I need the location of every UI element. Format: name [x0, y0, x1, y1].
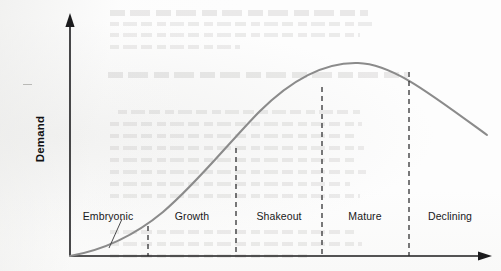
x-axis — [70, 251, 492, 260]
stage-dividers — [148, 72, 409, 256]
chart-canvas — [0, 0, 501, 271]
demand-curve — [70, 63, 487, 256]
stage-label-growth: Growth — [175, 210, 209, 222]
stage-label-mature: Mature — [348, 210, 381, 222]
y-axis-label: Demand — [34, 116, 46, 163]
embryonic-leader-line — [109, 219, 122, 248]
stage-label-declining: Declining — [428, 210, 472, 222]
stage-label-shakeout: Shakeout — [256, 210, 301, 222]
stage-label-embryonic: Embryonic — [83, 210, 134, 222]
y-axis — [65, 13, 74, 256]
industry-life-cycle-figure: Demand Embryonic Growth Shakeout Mature … — [0, 0, 501, 271]
